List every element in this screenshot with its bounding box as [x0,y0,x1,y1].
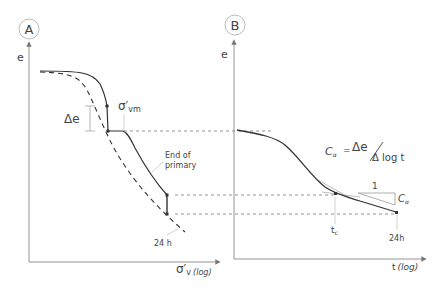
panel-a-badge: A [25,22,34,37]
panel-a: A e σ′v(log) Δe σ′vm End of primary 24 h [17,19,218,277]
panel-a-eop-curve [40,71,167,195]
panel-b: B e t(log) tc 24h 1 Cα Cα = Δe Δ log t [221,15,424,272]
formula-lhs: Cα [325,145,337,158]
panel-b-point-tc [334,192,337,195]
slope-rise-label: Cα [398,193,409,205]
tc-label: tc [331,225,338,236]
eop-label-line2: primary [165,161,197,170]
panel-a-point-vm-low [106,129,110,133]
24h-leader-a [167,229,178,235]
sigma-vm-label: σ′vm [118,99,141,114]
eop-label-line1: End of [165,151,191,160]
panel-a-y-label: e [17,51,24,64]
slope-triangle [358,193,395,205]
panel-b-badge: B [231,18,240,33]
panel-a-point-24h [166,213,169,216]
formula-denominator: Δ log t [372,152,404,163]
panel-b-y-label: e [221,48,228,61]
panel-a-24h-label: 24 h [154,239,172,248]
c-alpha-formula: Cα = Δe Δ log t [325,140,404,163]
panel-b-point-24h [395,211,398,214]
delta-e-label: Δe [64,112,80,126]
panel-a-point-vm [105,104,109,108]
panel-a-24h-curve [40,72,185,232]
formula-eq: = [343,145,351,155]
consolidation-diagram: A e σ′v(log) Δe σ′vm End of primary 24 h [0,0,438,291]
panel-a-point-eop [166,194,169,197]
panel-b-curve [237,130,396,212]
panel-b-24h-label: 24h [389,234,404,243]
panel-a-x-label: σ′v(log) [176,262,212,277]
eop-leader [152,162,163,172]
formula-numerator: Δe [352,140,368,154]
slope-run-label: 1 [372,181,378,191]
panel-b-x-label: t(log) [392,262,418,272]
